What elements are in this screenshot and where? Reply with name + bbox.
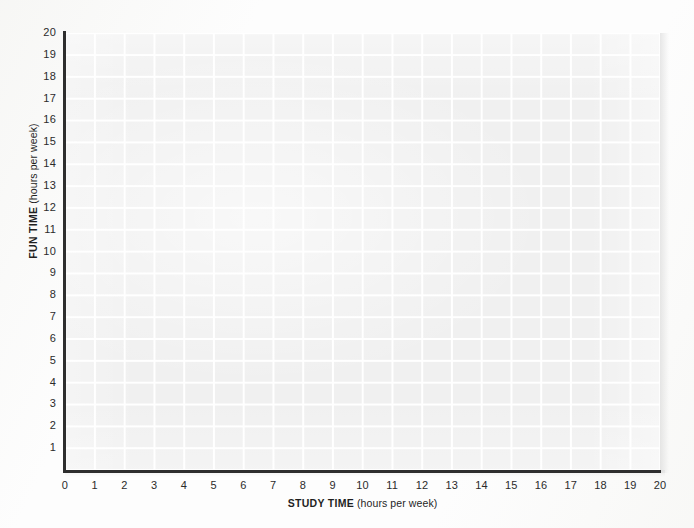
x-tick-label: 15 — [496, 479, 526, 491]
x-tick-label: 10 — [348, 479, 378, 491]
x-tick-label: 17 — [556, 479, 586, 491]
x-tick-label: 20 — [645, 479, 675, 491]
x-tick-label: 5 — [199, 479, 229, 491]
y-axis-title: FUN TIME (hours per week) — [27, 116, 39, 266]
x-tick-label: 2 — [110, 479, 140, 491]
y-tick-label: 8 — [34, 288, 56, 300]
x-tick-label: 11 — [377, 479, 407, 491]
x-axis-title-units: (hours per week) — [357, 497, 437, 509]
y-tick-label: 6 — [34, 332, 56, 344]
x-tick-label: 9 — [318, 479, 348, 491]
plot-grid-area[interactable] — [65, 33, 660, 470]
x-tick-label: 13 — [437, 479, 467, 491]
x-tick-label: 8 — [288, 479, 318, 491]
x-tick-label: 12 — [407, 479, 437, 491]
y-tick-label: 17 — [34, 92, 56, 104]
x-tick-label: 19 — [615, 479, 645, 491]
x-tick-label: 0 — [50, 479, 80, 491]
x-tick-label: 14 — [467, 479, 497, 491]
plot-shading-overlay — [65, 33, 660, 470]
y-tick-label: 1 — [34, 441, 56, 453]
y-axis-title-name: FUN TIME — [27, 207, 39, 259]
y-tick-label: 7 — [34, 310, 56, 322]
x-axis-title: STUDY TIME (hours per week) — [65, 497, 660, 509]
x-tick-label: 18 — [586, 479, 616, 491]
y-axis-title-units: (hours per week) — [27, 123, 39, 203]
x-axis-title-name: STUDY TIME — [288, 497, 354, 509]
x-axis-line — [63, 470, 661, 473]
y-tick-label: 4 — [34, 376, 56, 388]
x-tick-label: 4 — [169, 479, 199, 491]
y-tick-label: 18 — [34, 70, 56, 82]
y-axis-line — [63, 31, 66, 473]
x-tick-label: 7 — [258, 479, 288, 491]
y-tick-label: 2 — [34, 419, 56, 431]
x-tick-label: 16 — [526, 479, 556, 491]
y-tick-label: 9 — [34, 266, 56, 278]
scatter-plot-figure: 01234567891011121314151617181920 1234567… — [0, 0, 694, 528]
x-tick-label: 3 — [139, 479, 169, 491]
y-tick-label: 3 — [34, 397, 56, 409]
x-tick-label: 6 — [229, 479, 259, 491]
y-tick-label: 20 — [34, 26, 56, 38]
y-tick-label: 19 — [34, 48, 56, 60]
y-tick-label: 5 — [34, 354, 56, 366]
x-tick-label: 1 — [80, 479, 110, 491]
plot-right-edge-shadow — [660, 33, 669, 473]
